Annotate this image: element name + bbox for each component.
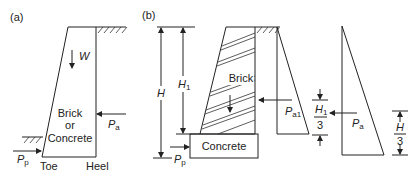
retaining-wall-diagram: (a) W Brick or Concrete Pa: [0, 0, 417, 176]
height1-dimension: H1: [176, 28, 200, 134]
pressure-triangle-2: [342, 26, 384, 155]
h1-third-dimension: H1 3: [312, 89, 328, 146]
toe-label: Toe: [40, 160, 58, 172]
height-dimension: H: [153, 28, 172, 158]
active-force-label: Pa: [108, 118, 120, 132]
h-third-numerator: H: [396, 121, 404, 133]
backfill-ground-hatch-icon: [96, 27, 127, 33]
material-line-1: Brick: [58, 107, 83, 119]
passive-force-label: Pp: [17, 153, 29, 167]
panel-b-label: (b): [142, 9, 155, 21]
material-line-2: or: [65, 119, 75, 131]
panel-a-label: (a): [10, 11, 23, 23]
weight-label: W: [79, 50, 91, 62]
backfill-ground-hatch-b-icon: [255, 27, 280, 33]
base-material-label: Concrete: [202, 140, 247, 152]
panel-b: (b) H H1: [142, 9, 408, 167]
passive-force-b-label: Pp: [174, 153, 186, 167]
h-third-dimension: H 3: [392, 111, 408, 155]
material-line-3: Concrete: [48, 132, 93, 144]
height1-label: H1: [178, 78, 191, 92]
pa-label: Pa: [352, 117, 364, 131]
heel-label: Heel: [86, 160, 109, 172]
wall-material-label: Brick: [229, 72, 254, 84]
height-label: H: [157, 87, 165, 99]
h-third-denominator: 3: [397, 135, 403, 147]
front-ground-hatch-icon: [22, 137, 43, 143]
h1-third-denominator: 3: [317, 119, 323, 131]
pa1-label: Pa1: [285, 105, 302, 119]
panel-a: (a) W Brick or Concrete Pa: [10, 11, 127, 172]
h1-third-numerator: H1: [315, 103, 328, 117]
